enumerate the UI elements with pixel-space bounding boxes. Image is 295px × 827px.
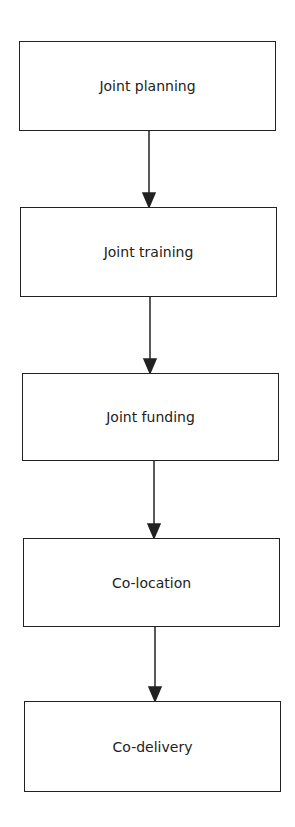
node-label: Joint funding xyxy=(106,409,195,425)
node-label: Joint training xyxy=(104,244,194,260)
node-co-delivery: Co-delivery xyxy=(24,701,281,792)
arrow-3-to-4 xyxy=(148,461,160,538)
node-label: Joint planning xyxy=(99,78,195,94)
arrow-4-to-5 xyxy=(149,627,161,701)
node-label: Co-delivery xyxy=(113,739,193,755)
node-label: Co-location xyxy=(112,575,191,591)
arrow-1-to-2 xyxy=(143,131,155,207)
node-joint-funding: Joint funding xyxy=(22,373,279,461)
node-joint-training: Joint training xyxy=(20,207,277,297)
node-joint-planning: Joint planning xyxy=(19,41,276,131)
node-co-location: Co-location xyxy=(23,538,280,627)
arrow-2-to-3 xyxy=(144,297,156,373)
